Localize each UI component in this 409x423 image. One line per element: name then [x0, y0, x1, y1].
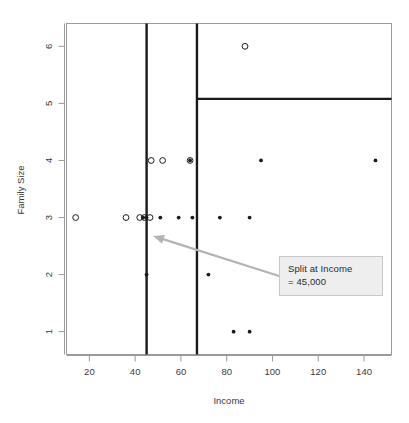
- y-axis: 123456 Family Size: [15, 24, 65, 355]
- plot-frame: [67, 24, 392, 355]
- data-point-open: [148, 158, 154, 164]
- annotation-line-1: Split at Income: [288, 263, 375, 276]
- x-tick-label: 120: [310, 366, 326, 377]
- x-tick-label: 80: [221, 366, 232, 377]
- data-point-filled: [188, 159, 192, 163]
- y-tick-label: 1: [43, 329, 54, 334]
- data-point-filled: [145, 216, 149, 220]
- x-axis-tick-labels: 20406080100120140: [84, 366, 372, 377]
- x-axis: 20406080100120140 Income: [67, 356, 392, 407]
- data-point-filled: [190, 216, 194, 220]
- y-axis-tick-labels: 123456: [43, 44, 54, 335]
- split-annotation-callout: Split at Income = 45,000: [279, 256, 383, 296]
- annotation-line-2: = 45,000: [288, 276, 375, 289]
- data-point-filled: [248, 330, 252, 334]
- y-tick-label: 3: [43, 215, 54, 220]
- data-point-filled: [158, 216, 162, 220]
- data-point-filled: [177, 216, 181, 220]
- x-tick-label: 60: [176, 366, 187, 377]
- y-axis-title: Family Size: [15, 165, 26, 214]
- scatter-plot-figure: 20406080100120140 Income 123456 Family S…: [0, 0, 409, 423]
- data-point-filled: [232, 330, 236, 334]
- y-tick-label: 4: [43, 158, 54, 163]
- data-point-filled: [248, 216, 252, 220]
- data-point-open: [242, 43, 248, 49]
- x-tick-label: 100: [265, 366, 281, 377]
- data-point-filled: [259, 159, 263, 163]
- data-point-open: [123, 215, 129, 221]
- partition-lines: [147, 24, 392, 355]
- data-point-filled: [207, 273, 211, 277]
- x-axis-title: Income: [213, 395, 244, 406]
- y-tick-label: 5: [43, 101, 54, 106]
- data-point-filled: [145, 273, 149, 277]
- callout-arrow-icon: [153, 235, 279, 276]
- y-tick-label: 2: [43, 272, 54, 277]
- x-tick-label: 40: [130, 366, 141, 377]
- y-tick-label: 6: [43, 44, 54, 49]
- data-point-open: [73, 215, 79, 221]
- x-tick-label: 20: [84, 366, 95, 377]
- data-point-filled: [374, 159, 378, 163]
- x-axis-ticks: [89, 356, 364, 362]
- data-point-filled: [141, 216, 145, 220]
- data-point-open: [160, 158, 166, 164]
- data-point-filled: [218, 216, 222, 220]
- x-tick-label: 140: [356, 366, 372, 377]
- plot-canvas: 20406080100120140 Income 123456 Family S…: [0, 0, 409, 423]
- y-axis-ticks: [59, 46, 65, 331]
